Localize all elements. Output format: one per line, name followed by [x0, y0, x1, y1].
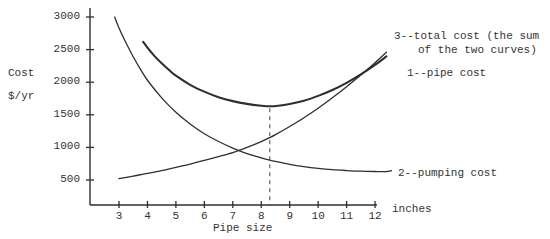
series-curve-pipe-cost — [119, 52, 386, 178]
x-axis-tick-label: 10 — [308, 210, 328, 223]
y-axis-tick-label: 1500 — [38, 108, 80, 121]
series-annotation-total-cost-line1: 3--total cost (the sum — [394, 29, 539, 43]
y-axis-title-line2: $/yr — [8, 90, 34, 103]
y-axis-title-line1: Cost — [8, 67, 34, 80]
y-axis-tick-label: 1000 — [38, 140, 80, 153]
x-axis-tick-label: 7 — [223, 210, 243, 223]
series-annotation-pipe-cost: 1--pipe cost — [407, 66, 486, 80]
x-axis-tick-label: 6 — [194, 210, 214, 223]
series-annotation-pumping-cost: 2--pumping cost — [398, 166, 497, 180]
y-axis-tick-label: 3000 — [38, 10, 80, 23]
leader-line-pumping-cost — [386, 171, 392, 172]
series-curve-pumping-cost — [115, 17, 387, 172]
y-axis-tick-label: 2500 — [38, 43, 80, 56]
y-axis-tick-label: 2000 — [38, 75, 80, 88]
x-axis-tick-label: 4 — [137, 210, 157, 223]
pipe-size-cost-chart: Cost $/yr Pipe size inches 3--total cost… — [0, 0, 550, 239]
series-annotation-total-cost-line2: of the two curves) — [418, 43, 537, 57]
x-axis-title: Pipe size — [213, 222, 272, 235]
x-axis-tick-label: 9 — [280, 210, 300, 223]
x-axis-tick-label: 12 — [365, 210, 385, 223]
x-axis-tick-label: 5 — [166, 210, 186, 223]
x-axis-tick-label: 8 — [251, 210, 271, 223]
x-axis-tick-label: 11 — [337, 210, 357, 223]
y-axis-tick-label: 500 — [38, 173, 80, 186]
x-axis-tick-label: 3 — [109, 210, 129, 223]
series-curve-total-cost — [143, 42, 386, 107]
x-axis-unit-label: inches — [392, 203, 432, 216]
